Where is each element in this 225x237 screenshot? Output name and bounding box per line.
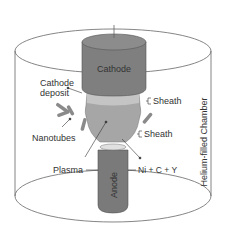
cathode-deposit-label-line1: Cathode xyxy=(40,78,74,88)
sheath-top-label: Sheath xyxy=(153,96,182,106)
chamber-label: Helium-filled Chamber xyxy=(199,97,209,186)
anode-label: Anode xyxy=(109,172,119,198)
cathode-label: Cathode xyxy=(97,64,131,74)
nanotubes-label: Nanotubes xyxy=(32,133,76,143)
arc-discharge-diagram: Cathode Cathode deposit Sheath Sheath Na… xyxy=(0,0,225,237)
anode-composition-label: Ni + C + Y xyxy=(138,165,177,175)
cathode-deposit-label-line2: deposit xyxy=(40,88,70,98)
plasma-label: Plasma xyxy=(53,165,83,175)
cathode-rod xyxy=(82,25,146,96)
plasma-region xyxy=(85,93,141,150)
sheath-bottom-label: Sheath xyxy=(144,129,173,139)
